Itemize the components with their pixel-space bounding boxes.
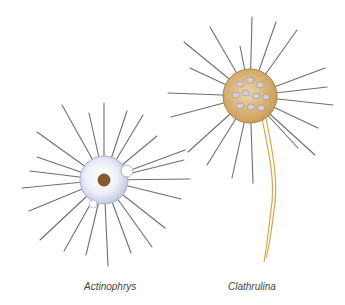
illustration bbox=[0, 0, 345, 305]
clathrulina-body bbox=[223, 69, 277, 123]
actinophrys-body bbox=[80, 156, 133, 208]
label-actinophrys: Actinophrys bbox=[84, 281, 136, 292]
nucleus bbox=[98, 174, 110, 186]
clathrulina-stalk bbox=[262, 118, 276, 262]
figure: Actinophrys Clathrulina bbox=[0, 0, 345, 305]
label-clathrulina: Clathrulina bbox=[228, 281, 276, 292]
